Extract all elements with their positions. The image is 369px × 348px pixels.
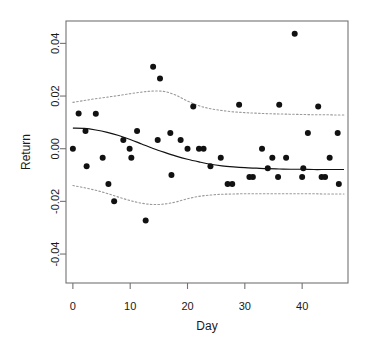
axis-labels-group: 0.040.020.00-0.02-0.04010203040DayReturn	[19, 33, 308, 333]
data-point	[335, 130, 341, 136]
data-point	[259, 146, 265, 152]
x-tick-label: 40	[296, 300, 308, 312]
data-point	[157, 75, 163, 81]
plot-canvas: 0.040.020.00-0.02-0.04010203040DayReturn	[0, 0, 369, 348]
data-point	[167, 130, 173, 136]
data-point	[185, 146, 191, 152]
data-point	[111, 198, 117, 204]
data-point	[236, 102, 242, 108]
data-point	[84, 163, 90, 169]
data-point	[322, 174, 328, 180]
data-point	[300, 165, 306, 171]
data-point	[207, 163, 213, 169]
data-point	[134, 128, 140, 134]
y-tick-label: -0.04	[49, 241, 61, 266]
y-axis-title: Return	[19, 134, 33, 170]
y-tick-label: -0.02	[49, 189, 61, 214]
data-point	[70, 146, 76, 152]
data-point	[128, 155, 134, 161]
data-point	[327, 155, 333, 161]
data-point	[305, 130, 311, 136]
data-point	[336, 181, 342, 187]
x-tick-label: 20	[181, 300, 193, 312]
x-axis-title: Day	[196, 319, 217, 333]
data-point	[265, 165, 271, 171]
data-point	[105, 181, 111, 187]
y-tick-label: 0.00	[49, 138, 61, 159]
data-point	[100, 155, 106, 161]
data-point	[218, 155, 224, 161]
data-point	[93, 111, 99, 117]
data-point	[127, 146, 133, 152]
x-tick-label: 0	[70, 300, 76, 312]
upper-confidence-band	[73, 91, 344, 115]
scatter-plot-figure: 0.040.020.00-0.02-0.04010203040DayReturn	[0, 0, 369, 348]
fit-curve-group	[73, 128, 344, 169]
data-point	[178, 137, 184, 143]
data-point	[283, 155, 289, 161]
plot-frame	[66, 21, 348, 283]
y-tick-label: 0.02	[49, 85, 61, 106]
confidence-bands-group	[73, 91, 344, 205]
data-point	[76, 110, 82, 116]
data-point	[120, 137, 126, 143]
data-point	[190, 104, 196, 110]
data-point	[269, 155, 275, 161]
data-point	[150, 64, 156, 70]
data-point	[168, 172, 174, 178]
data-point	[143, 218, 149, 224]
x-tick-label: 30	[239, 300, 251, 312]
data-point	[292, 31, 298, 37]
x-tick-label: 10	[124, 300, 136, 312]
data-point	[82, 128, 88, 134]
loess-fit-curve	[73, 128, 344, 169]
data-point	[155, 137, 161, 143]
data-point	[275, 174, 281, 180]
data-point	[201, 146, 207, 152]
data-point	[299, 174, 305, 180]
y-tick-label: 0.04	[49, 33, 61, 54]
data-point	[315, 104, 321, 110]
data-point	[229, 181, 235, 187]
data-point	[250, 174, 256, 180]
data-point	[276, 102, 282, 108]
